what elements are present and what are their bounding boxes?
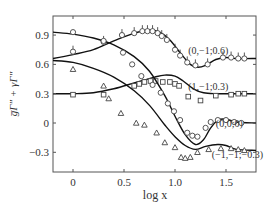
circle-marker-icon: [195, 134, 200, 139]
square-marker-icon: [160, 80, 165, 85]
square-marker-icon: [236, 91, 241, 96]
circle-marker-icon: [165, 101, 170, 106]
series-label: (−1,−1;−0.3): [212, 149, 263, 161]
circle-marker-icon: [178, 117, 183, 122]
circle-tick-marker-icon: [205, 58, 210, 67]
triangle-marker-icon: [142, 122, 148, 127]
circle-tick-marker-icon: [193, 59, 198, 68]
fit-curve: [53, 61, 257, 151]
x-tick-label: 1.5: [219, 176, 233, 188]
circle-marker-icon: [150, 82, 155, 87]
square-marker-icon: [229, 92, 234, 97]
chart: 00.51.01.5 0.90.60.30−0.3 (0,−1;0.6)(1,−…: [0, 0, 271, 209]
triangle-marker-icon: [162, 140, 168, 145]
circle-tick-marker-icon: [140, 25, 145, 34]
circle-tick-marker-icon: [242, 53, 247, 62]
circle-marker-icon: [171, 109, 176, 114]
square-marker-icon: [214, 93, 219, 98]
circle-tick-marker-icon: [229, 52, 234, 61]
triangle-marker-icon: [133, 120, 139, 125]
square-marker-icon: [142, 80, 147, 85]
series-label: (0,−1;0.6): [188, 45, 228, 57]
series-label: (0,0;0): [216, 118, 243, 130]
triangle-marker-icon: [206, 147, 212, 152]
y-tick-label: 0.6: [35, 58, 49, 70]
circle-marker-icon: [101, 38, 106, 43]
circle-tick-marker-icon: [236, 53, 241, 62]
triangle-marker-icon: [118, 110, 124, 115]
circle-tick-marker-icon: [185, 56, 190, 65]
plot-area: 00.51.01.5 0.90.60.30−0.3 (0,−1;0.6)(1,−…: [29, 16, 263, 188]
circle-marker-icon: [130, 62, 135, 67]
y-axis-label: g̅Γ″ + γΓ″: [7, 71, 19, 116]
y-tick-label: −0.3: [29, 146, 49, 158]
circle-marker-icon: [158, 90, 163, 95]
triangle-marker-icon: [172, 145, 178, 150]
svg-text:g̅Γ″ + γΓ″: g̅Γ″ + γΓ″: [7, 71, 19, 116]
circle-tick-marker-icon: [132, 27, 137, 36]
circle-tick-marker-icon: [172, 44, 177, 53]
x-axis-label: log x: [143, 188, 167, 202]
y-tick-label: 0: [44, 117, 50, 129]
circle-marker-icon: [190, 133, 195, 138]
square-marker-icon: [186, 94, 191, 99]
circle-marker-icon: [139, 74, 144, 79]
triangle-marker-icon: [101, 83, 107, 88]
circle-marker-icon: [70, 30, 75, 35]
square-marker-icon: [71, 92, 76, 97]
circle-marker-icon: [120, 50, 125, 55]
series-label: (1,−1;0.3): [188, 81, 228, 93]
x-tick-label: 0.5: [117, 176, 131, 188]
square-marker-icon: [198, 98, 203, 103]
x-tick-label: 1.0: [168, 176, 182, 188]
x-tick-label: 0: [70, 176, 76, 188]
square-marker-icon: [177, 84, 182, 89]
y-tick-label: 0.3: [35, 88, 49, 100]
triangle-marker-icon: [106, 96, 112, 101]
circle-marker-icon: [185, 130, 190, 135]
square-marker-icon: [101, 92, 106, 97]
circle-tick-marker-icon: [145, 25, 150, 34]
circle-tick-marker-icon: [119, 29, 124, 38]
square-marker-icon: [132, 84, 137, 89]
circle-marker-icon: [208, 119, 213, 124]
circle-tick-marker-icon: [70, 46, 75, 55]
square-marker-icon: [242, 91, 247, 96]
triangle-marker-icon: [70, 66, 76, 71]
circle-tick-marker-icon: [150, 25, 155, 34]
square-marker-icon: [137, 82, 142, 87]
series-3: [53, 61, 257, 161]
triangle-marker-icon: [154, 130, 160, 135]
x-axis-ticks: 00.51.01.5: [70, 16, 233, 188]
circle-marker-icon: [203, 125, 208, 130]
y-tick-label: 0.9: [35, 29, 49, 41]
triangle-marker-icon: [188, 154, 194, 159]
triangle-marker-icon: [195, 150, 201, 155]
square-marker-icon: [168, 80, 173, 85]
